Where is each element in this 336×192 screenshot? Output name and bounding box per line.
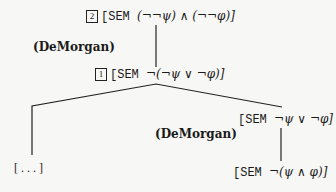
tree-edges bbox=[0, 0, 336, 192]
right-leaf: [SEM ¬(ψ ∧ φ)] bbox=[233, 165, 327, 180]
formula: (¬¬ψ) ∧ (¬¬φ)] bbox=[137, 9, 235, 23]
sem-label: [SEM bbox=[110, 68, 146, 82]
formula: ¬ψ ∨ ¬φ] bbox=[274, 112, 333, 126]
node-1: 1[SEM ¬(¬ψ ∨ ¬φ)] bbox=[95, 67, 224, 82]
sem-label: [SEM bbox=[238, 113, 274, 127]
sem-label: [SEM bbox=[233, 166, 269, 180]
rule-label-top: (DeMorgan) bbox=[33, 40, 115, 54]
left-leaf: [ . . . ] bbox=[14, 161, 43, 175]
formula: ¬(ψ ∧ φ)] bbox=[269, 165, 327, 179]
sem-label: [SEM bbox=[101, 10, 137, 24]
right-node: [SEM ¬ψ ∨ ¬φ] bbox=[238, 112, 333, 127]
rule-label-right: (DeMorgan) bbox=[155, 127, 237, 141]
root-node: 2[SEM (¬¬ψ) ∧ (¬¬φ)] bbox=[86, 9, 235, 24]
tag-box: 1 bbox=[95, 68, 107, 81]
tag-box: 2 bbox=[86, 10, 98, 23]
formula: ¬(¬ψ ∨ ¬φ)] bbox=[146, 67, 224, 81]
